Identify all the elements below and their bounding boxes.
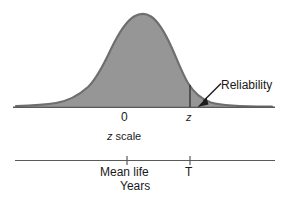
z-axis-title-text: scale (113, 130, 142, 142)
z-axis-title: z scale (107, 131, 141, 142)
years-axis-tick-label-t: T (185, 166, 192, 178)
years-axis-title: Years (120, 180, 150, 192)
reliability-annotation-label: Reliability (221, 79, 272, 91)
years-axis-tick-label-mean-life: Mean life (100, 166, 149, 178)
z-axis-tick-label-zero: 0 (121, 111, 128, 123)
reliability-normal-curve-figure: 0 z z scale Mean life T Years Reliabilit… (0, 0, 287, 201)
normal-curve-shaded-area (16, 14, 272, 107)
z-axis-tick-label-z: z (186, 112, 192, 123)
